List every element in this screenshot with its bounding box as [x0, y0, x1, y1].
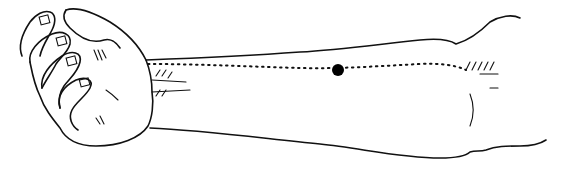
- meridian-line: [148, 64, 466, 70]
- forearm-drawing: [146, 16, 546, 158]
- hand-drawing: [20, 9, 152, 146]
- arm-illustration: [0, 0, 561, 169]
- acupressure-point-marker: [332, 64, 344, 76]
